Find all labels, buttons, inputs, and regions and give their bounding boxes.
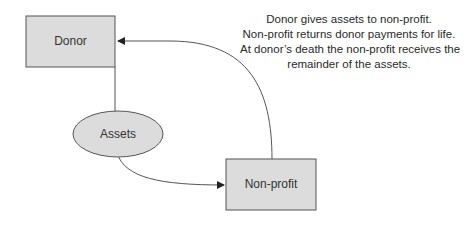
note-line: Non-profit returns donor payments for li… xyxy=(240,27,458,42)
nonprofit-label: Non-profit xyxy=(226,177,316,191)
note-line: remainder of the assets. xyxy=(240,57,458,72)
assets-label: Assets xyxy=(73,127,163,141)
description-note: Donor gives assets to non-profit. Non-pr… xyxy=(240,12,458,72)
note-line: At donor’s death the non-profit receives… xyxy=(240,42,458,57)
note-line: Donor gives assets to non-profit. xyxy=(240,12,458,27)
edge-assets-nonprofit xyxy=(117,153,224,185)
donor-label: Donor xyxy=(26,34,115,48)
